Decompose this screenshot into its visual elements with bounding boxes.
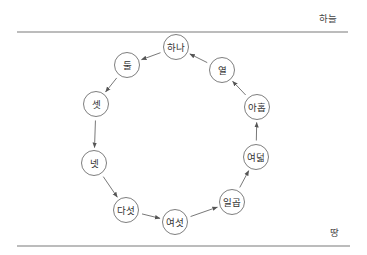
edge-arrow-n6-to-n7 — [191, 207, 218, 216]
node-n7: 일곱 — [220, 190, 245, 215]
edge-arrow-n10-to-n1 — [190, 54, 207, 63]
node-label: 넷 — [90, 158, 99, 169]
node-n10: 열 — [210, 58, 235, 83]
node-label: 셋 — [92, 99, 101, 110]
node-n2: 둘 — [115, 53, 140, 78]
edge-arrow-n1-to-n2 — [142, 53, 161, 60]
nodes-layer: 하나둘셋넷다섯여섯일곱여덟아홉열 — [82, 35, 270, 235]
node-n4: 넷 — [82, 151, 107, 176]
edge-arrow-n4-to-n5 — [103, 177, 117, 198]
node-n8: 여덟 — [244, 145, 269, 170]
node-n9: 아홉 — [245, 95, 270, 120]
edge-arrow-n9-to-n10 — [233, 81, 246, 95]
node-label: 일곱 — [223, 197, 241, 208]
node-n6: 여섯 — [163, 210, 188, 235]
node-label: 여섯 — [166, 217, 184, 228]
node-label: 다섯 — [117, 205, 135, 216]
node-label: 여덟 — [247, 152, 265, 163]
node-n1: 하나 — [164, 35, 189, 60]
cycle-diagram: 하늘 땅 하나둘셋넷다섯여섯일곱여덟아홉열 — [0, 0, 367, 255]
node-n5: 다섯 — [114, 198, 139, 223]
sky-label: 하늘 — [319, 13, 337, 24]
edge-arrow-n7-to-n8 — [240, 171, 249, 188]
node-n3: 셋 — [84, 92, 109, 117]
node-label: 아홉 — [248, 102, 266, 113]
ground-label: 땅 — [330, 227, 339, 238]
node-label: 열 — [218, 65, 227, 76]
edge-arrow-n5-to-n6 — [142, 214, 160, 218]
edge-arrow-n3-to-n4 — [95, 120, 96, 147]
edge-arrow-n2-to-n3 — [106, 78, 117, 92]
node-label: 둘 — [123, 60, 132, 71]
node-label: 하나 — [167, 42, 185, 53]
